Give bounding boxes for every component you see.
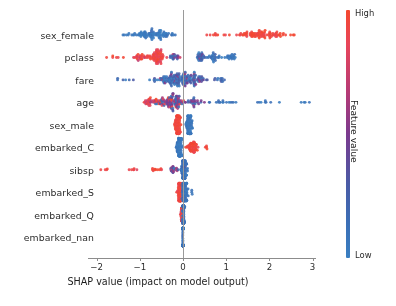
x-tick-label: 3: [310, 262, 315, 272]
x-tick-label: 1: [223, 262, 228, 272]
x-tick-label: −2: [90, 262, 103, 272]
x-tick-label: −1: [133, 262, 146, 272]
x-tick-mark: [183, 258, 184, 261]
y-axis-label-embarked-S: embarked_S: [36, 187, 94, 198]
y-axis-label-embarked-C: embarked_C: [35, 142, 94, 153]
x-tick-mark: [140, 258, 141, 261]
y-axis-label-sibsp: sibsp: [69, 164, 94, 175]
y-axis-label-sex-female: sex_female: [40, 30, 94, 41]
x-tick-mark: [269, 258, 270, 261]
x-tick-label: 2: [267, 262, 272, 272]
plot-area: sex_femalepclassfareagesex_maleembarked_…: [0, 0, 396, 306]
beeswarm-scatter-layer: [0, 0, 396, 306]
colorbar-high-label: High: [355, 8, 374, 18]
x-tick-mark: [97, 258, 98, 261]
shap-summary-figure: sex_femalepclassfareagesex_maleembarked_…: [0, 0, 396, 306]
x-axis-title: SHAP value (impact on model output): [0, 276, 316, 287]
x-tick-mark: [226, 258, 227, 261]
zero-reference-line: [183, 10, 184, 258]
y-axis-label-embarked-nan: embarked_nan: [24, 232, 94, 243]
x-tick-label: 0: [180, 262, 185, 272]
colorbar-low-label: Low: [355, 250, 372, 260]
y-axis-label-fare: fare: [75, 74, 94, 85]
x-axis-spine: [88, 258, 316, 259]
y-axis-label-embarked-Q: embarked_Q: [34, 209, 94, 220]
y-axis-label-age: age: [76, 97, 94, 108]
y-axis-label-sex-male: sex_male: [50, 119, 94, 130]
colorbar-title: Feature value: [349, 100, 360, 163]
y-axis-label-pclass: pclass: [64, 52, 94, 63]
x-tick-mark: [313, 258, 314, 261]
